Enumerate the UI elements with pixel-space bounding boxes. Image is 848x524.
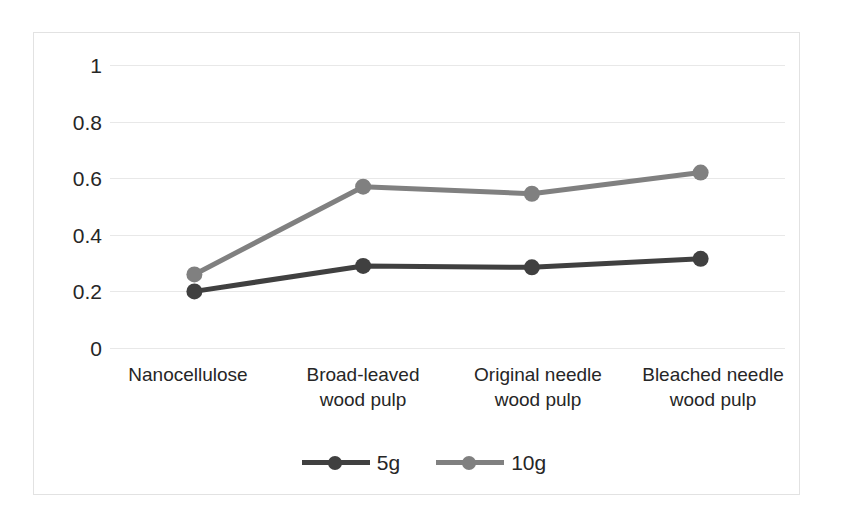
- y-tick-label: 0.4: [32, 225, 102, 246]
- legend-swatch-10g: [436, 453, 504, 471]
- x-tick-label-original-needle-wood-pulp: Original needle wood pulp: [454, 362, 622, 412]
- x-tick-line2: wood pulp: [279, 387, 447, 412]
- y-tick-label: 1: [32, 55, 102, 76]
- y-tick-label: 0: [32, 338, 102, 359]
- x-tick-line1: Original needle: [454, 362, 622, 387]
- data-point-5g-2: [524, 259, 540, 275]
- data-point-10g-0: [186, 266, 202, 282]
- line-chart: 1 0.8 0.6 0.4 0.2 0 Nanocellulose Broad-…: [0, 0, 848, 524]
- data-point-10g-1: [355, 179, 371, 195]
- data-point-5g-3: [693, 251, 709, 267]
- data-point-10g-2: [524, 186, 540, 202]
- data-point-10g-3: [693, 165, 709, 181]
- data-point-5g-1: [355, 258, 371, 274]
- y-tick-label: 0.2: [32, 281, 102, 302]
- legend-item-5g[interactable]: 5g: [302, 452, 400, 473]
- series-layer: [110, 65, 785, 348]
- x-tick-label-bleached-needle-wood-pulp: Bleached needle wood pulp: [629, 362, 797, 412]
- legend-marker-icon: [328, 456, 342, 470]
- x-axis: Nanocellulose Broad-leaved wood pulp Ori…: [110, 362, 785, 432]
- data-point-5g-0: [186, 283, 202, 299]
- chart-legend: 5g 10g: [0, 440, 848, 484]
- legend-swatch-5g: [302, 453, 370, 471]
- line-series-10g: [194, 173, 700, 275]
- y-axis: 1 0.8 0.6 0.4 0.2 0: [28, 65, 102, 348]
- legend-item-10g[interactable]: 10g: [436, 452, 546, 473]
- x-tick-label-nanocellulose: Nanocellulose: [104, 362, 272, 387]
- line-series-5g: [194, 259, 700, 292]
- legend-label-5g: 5g: [377, 452, 400, 473]
- x-tick-line1: Broad-leaved: [279, 362, 447, 387]
- x-tick-line1: Nanocellulose: [104, 362, 272, 387]
- y-tick-label: 0.8: [32, 112, 102, 133]
- x-tick-line2: wood pulp: [454, 387, 622, 412]
- markers-series-5g: [186, 251, 708, 300]
- y-tick-label: 0.6: [32, 168, 102, 189]
- legend-marker-icon: [462, 456, 476, 470]
- gridline-0: [110, 348, 785, 349]
- x-tick-label-broad-leaved-wood-pulp: Broad-leaved wood pulp: [279, 362, 447, 412]
- x-tick-line2: wood pulp: [629, 387, 797, 412]
- legend-label-10g: 10g: [511, 452, 546, 473]
- x-tick-line1: Bleached needle: [629, 362, 797, 387]
